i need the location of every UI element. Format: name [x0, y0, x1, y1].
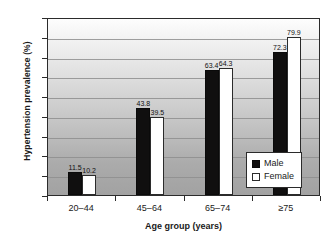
bar-female-2: 64.3 — [219, 68, 233, 195]
bar-group: 43.839.5 — [136, 18, 164, 195]
x-axis-tick-mark — [320, 196, 321, 201]
bar-value-label: 64.3 — [219, 60, 233, 67]
legend-label-female: Female — [264, 172, 294, 181]
bar-value-label: 11.5 — [69, 164, 82, 171]
bar-value-label: 39.5 — [151, 109, 165, 116]
legend-item-male: Male — [252, 157, 294, 170]
bar-male-0: 11.5 — [68, 172, 82, 195]
x-axis-title: Age group (years) — [47, 221, 320, 231]
x-axis-tick-mark — [115, 196, 116, 201]
bar-female-0: 10.2 — [82, 175, 96, 195]
bar-value-label: 72.3 — [273, 44, 287, 51]
x-axis-tick-mark — [252, 196, 253, 201]
x-axis-tick-mark — [47, 196, 48, 201]
bar-value-label: 79.9 — [287, 29, 301, 36]
bar-male-1: 43.8 — [136, 108, 150, 195]
bar-female-1: 39.5 — [150, 117, 164, 195]
x-axis-tick-label: 65–74 — [183, 203, 253, 213]
y-axis-title: Hypertension prevalence (%) — [22, 6, 32, 196]
bar-value-label: 63.4 — [205, 62, 219, 69]
bar-male-2: 63.4 — [205, 70, 219, 195]
legend-item-female: Female — [252, 170, 294, 183]
x-axis-tick-label: 20–44 — [46, 203, 116, 213]
legend-swatch-male-icon — [252, 160, 260, 168]
chart-legend: Male Female — [246, 152, 302, 188]
bar-value-label: 10.2 — [82, 167, 96, 174]
bar-value-label: 43.8 — [137, 100, 151, 107]
legend-label-male: Male — [264, 159, 284, 168]
legend-swatch-female-icon — [252, 173, 260, 181]
bar-chart: Hypertension prevalence (%) 908070605040… — [0, 0, 335, 245]
x-axis-tick-label: 45–64 — [114, 203, 184, 213]
bar-group: 11.510.2 — [68, 18, 96, 195]
x-axis-tick-mark — [184, 196, 185, 201]
bar-group: 63.464.3 — [205, 18, 233, 195]
x-axis-tick-label: ≥75 — [251, 203, 321, 213]
